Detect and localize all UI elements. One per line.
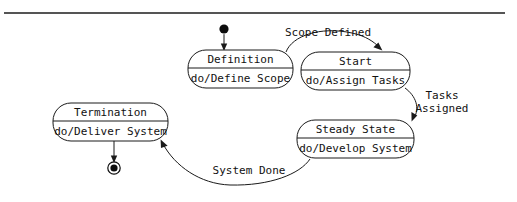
state-activity-label: do/Define Scope: [191, 72, 290, 85]
state-name-label: Steady State: [316, 123, 395, 136]
state-termination[interactable]: Termination do/Deliver System: [53, 103, 168, 141]
state-name-label: Termination: [74, 106, 147, 119]
uml-state-diagram: Scope Defined Tasks Assigned System Done…: [0, 0, 517, 202]
state-definition[interactable]: Definition do/Define Scope: [188, 50, 293, 88]
state-start[interactable]: Start do/Assign Tasks: [301, 52, 410, 90]
state-activity-label: do/Develop System: [299, 142, 412, 155]
initial-state-icon: [219, 24, 228, 33]
diagram-canvas: Scope Defined Tasks Assigned System Done…: [0, 0, 517, 202]
final-state-icon: [108, 162, 120, 174]
transition-label-scope-defined: Scope Defined: [285, 26, 371, 39]
transition-label-tasks-line1: Tasks: [425, 89, 458, 102]
arrowhead-icon: [161, 140, 168, 148]
transition-tasks-assigned: Tasks Assigned: [405, 88, 468, 122]
state-steady-state[interactable]: Steady State do/Develop System: [297, 120, 414, 158]
transition-system-done: System Done: [161, 140, 310, 185]
transition-initial-to-definition: [221, 34, 227, 51]
final-state-inner-dot: [110, 164, 117, 171]
state-activity-label: do/Deliver System: [54, 125, 167, 138]
state-activity-label: do/Assign Tasks: [306, 74, 405, 87]
transition-label-tasks-line2: Assigned: [416, 102, 469, 115]
transition-termination-to-final: [111, 141, 117, 163]
state-name-label: Definition: [207, 53, 273, 66]
transition-scope-defined: Scope Defined: [285, 26, 382, 52]
state-name-label: Start: [339, 55, 372, 68]
transition-label-system-done: System Done: [213, 164, 286, 177]
